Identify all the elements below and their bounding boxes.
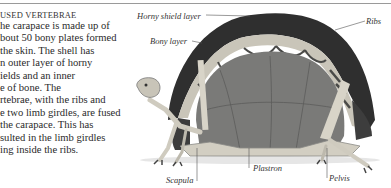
label-scapula: Scapula	[166, 175, 193, 185]
label-plastron: Plastron	[253, 163, 282, 173]
turtle-skeleton-figure: Horny shield layer Bony layer Ribs Scapu…	[100, 0, 391, 188]
label-horny-shield-layer: Horny shield layer	[137, 11, 201, 21]
section-heading: USED VERTEBRAE	[0, 10, 77, 20]
label-bony-layer: Bony layer	[150, 36, 187, 46]
label-ribs: Ribs	[366, 16, 381, 26]
turtle-skeleton-illustration	[100, 0, 391, 188]
label-pelvis: Pelvis	[329, 173, 350, 183]
